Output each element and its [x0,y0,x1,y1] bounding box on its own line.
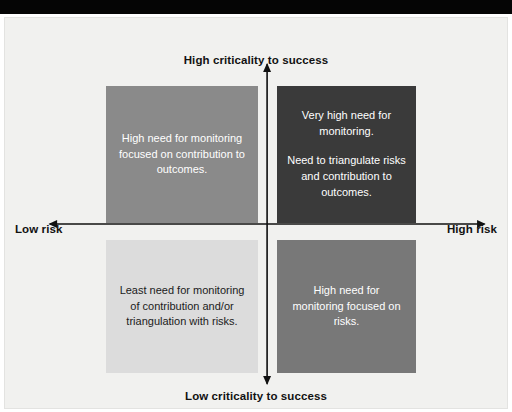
figure-canvas: High criticality to success Low critical… [4,17,508,409]
quadrant-text-line: High need for monitoring focused on cont… [116,131,248,179]
quadrant-text-line: Need to triangulate risks and contributi… [287,153,406,201]
quadrant-high-criticality-high-risk: Very high need for monitoring. Need to t… [277,86,416,223]
axis-label-low-criticality: Low criticality to success [5,390,507,402]
axis-label-high-criticality: High criticality to success [5,54,507,66]
quadrant-low-criticality-low-risk: Least need for monitoring of contributio… [106,240,258,373]
page-header-band [0,0,512,14]
quadrant-text-line: Very high need for monitoring. [287,108,406,140]
quadrant-low-criticality-high-risk: High need for monitoring focused on risk… [277,240,416,373]
quadrant-text-line: High need for monitoring focused on risk… [287,283,406,331]
quadrant-text-line: Least need for monitoring of contributio… [116,283,248,331]
axis-label-low-risk: Low risk [15,223,62,235]
quadrant-high-criticality-low-risk: High need for monitoring focused on cont… [106,86,258,223]
quadrant-matrix-figure: High criticality to success Low critical… [0,0,512,412]
axes-group [5,18,512,412]
axis-label-high-risk: High risk [447,223,497,235]
